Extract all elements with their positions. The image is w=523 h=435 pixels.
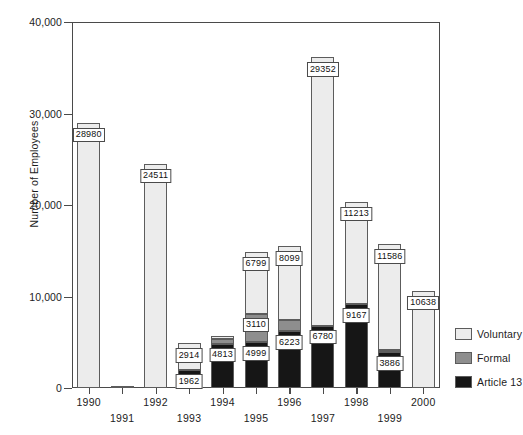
legend-swatch-icon — [455, 376, 472, 388]
value-label-1993-article-13: 1962 — [176, 374, 203, 389]
chart-legend: VoluntaryFormalArticle 13 — [455, 322, 522, 394]
y-axis-tick — [64, 388, 72, 389]
legend-item-label: Voluntary — [477, 328, 522, 340]
legend-item-article-13[interactable]: Article 13 — [455, 370, 522, 394]
value-label-1995-article-13: 4999 — [243, 346, 270, 361]
stacked-bar-chart: Number of Employees 40,00030,00020,00010… — [0, 0, 523, 435]
legend-item-label: Article 13 — [477, 376, 522, 388]
value-label-1995-formal: 3110 — [243, 318, 269, 333]
bar-segment-formal[interactable] — [278, 320, 301, 331]
x-axis-tick — [156, 388, 157, 394]
x-axis-tick-label-1998: 1998 — [333, 396, 379, 408]
x-axis-tick-label-1990: 1990 — [66, 396, 112, 408]
x-axis-tick-label-1999: 1999 — [367, 412, 413, 424]
value-label-1999-voluntary: 11586 — [374, 249, 405, 264]
x-axis-tick-label-1997: 1997 — [300, 412, 346, 424]
y-axis-tick-label: 40,000 — [2, 16, 62, 28]
bar-1992[interactable] — [144, 164, 167, 388]
value-label-2000-voluntary: 10638 — [407, 296, 439, 311]
x-axis-tick-label-1995: 1995 — [233, 412, 279, 424]
value-label-1997-voluntary: 29352 — [307, 62, 339, 77]
value-label-1993-voluntary: 2914 — [176, 348, 203, 363]
legend-swatch-icon — [455, 328, 472, 340]
x-axis-tick-label-1993: 1993 — [166, 412, 212, 424]
y-axis-tick-label: 10,000 — [2, 291, 62, 303]
y-axis-tick-label: 30,000 — [2, 108, 62, 120]
y-axis-tick — [64, 205, 72, 206]
x-axis-tick — [323, 388, 324, 394]
bar-1998[interactable] — [345, 202, 368, 388]
value-label-1990-voluntary: 28980 — [73, 128, 105, 143]
value-label-1999-article-13: 3886 — [376, 356, 403, 371]
value-label-1998-voluntary: 11213 — [341, 207, 372, 222]
legend-item-voluntary[interactable]: Voluntary — [455, 322, 522, 346]
x-axis-tick — [189, 388, 190, 394]
value-label-1994-article-13: 4813 — [209, 348, 236, 363]
bar-segment-formal[interactable] — [211, 339, 234, 344]
plot-right-border — [439, 22, 440, 388]
y-axis-tick-label: 0 — [2, 382, 62, 394]
legend-item-label: Formal — [477, 352, 511, 364]
value-label-1998-article-13: 9167 — [343, 308, 370, 323]
value-label-1992-voluntary: 24511 — [140, 169, 171, 184]
x-axis-tick — [356, 388, 357, 394]
y-axis-tick — [64, 22, 72, 23]
y-axis-labels: 40,00030,00020,00010,0000 — [0, 0, 62, 435]
y-axis-tick — [64, 114, 72, 115]
x-axis-tick — [289, 388, 290, 394]
x-axis-tick-label-1992: 1992 — [133, 396, 179, 408]
bar-segment-formal[interactable] — [378, 350, 401, 352]
bar-segment-voluntary[interactable] — [211, 336, 234, 339]
x-axis-tick — [122, 388, 123, 394]
value-label-1996-voluntary: 8099 — [276, 251, 303, 266]
x-axis-tick — [223, 388, 224, 394]
x-axis-tick — [390, 388, 391, 394]
x-axis-tick-label-1994: 1994 — [200, 396, 246, 408]
x-axis-tick-label-1991: 1991 — [99, 412, 145, 424]
bar-segment-voluntary[interactable] — [77, 123, 100, 388]
x-axis-tick — [89, 388, 90, 394]
legend-item-formal[interactable]: Formal — [455, 346, 522, 370]
value-label-1996-article-13: 6223 — [276, 335, 303, 350]
x-axis-tick — [423, 388, 424, 394]
bar-segment-voluntary[interactable] — [311, 57, 334, 326]
x-axis-tick-label-2000: 2000 — [400, 396, 446, 408]
y-axis-tick — [64, 297, 72, 298]
x-axis-tick-label-1996: 1996 — [266, 396, 312, 408]
y-axis-tick-label: 20,000 — [2, 199, 62, 211]
x-axis-tick — [256, 388, 257, 394]
bar-1990[interactable] — [77, 123, 100, 388]
bar-segment-voluntary[interactable] — [144, 164, 167, 388]
legend-swatch-icon — [455, 352, 472, 364]
value-label-1995-voluntary: 6799 — [243, 257, 270, 272]
bar-1996[interactable] — [278, 246, 301, 388]
value-label-1997-article-13: 6780 — [309, 330, 336, 345]
